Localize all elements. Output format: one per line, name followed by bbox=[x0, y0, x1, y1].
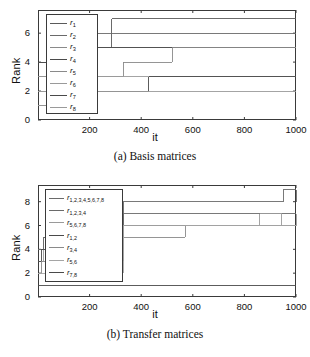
legend-swatch bbox=[50, 23, 67, 24]
legend-a[interactable]: r1r2r3r4r5r6r7r8 bbox=[46, 14, 98, 114]
legend-item[interactable]: r1,2,3,4 bbox=[46, 204, 122, 216]
legend-swatch bbox=[49, 260, 64, 261]
legend-swatch bbox=[49, 222, 64, 223]
figure-container: Rank 0 2 4 6 200 400 600 800 1000 it r1r… bbox=[0, 0, 310, 357]
legend-item[interactable]: r1 bbox=[47, 17, 97, 29]
caption-b: (b) Transfer matrices bbox=[0, 328, 310, 340]
legend-item[interactable]: r6 bbox=[47, 77, 97, 89]
legend-item[interactable]: r1,2 bbox=[46, 229, 122, 241]
legend-label: r8 bbox=[70, 103, 76, 111]
legend-item[interactable]: r7,8 bbox=[46, 266, 122, 278]
legend-label: r3 bbox=[70, 43, 76, 51]
legend-label: r5,6 bbox=[67, 256, 77, 264]
legend-item[interactable]: r4 bbox=[47, 53, 97, 65]
panel-transfer-matrices: Rank 0 2 4 6 8 200 400 600 800 1000 it r… bbox=[0, 176, 310, 357]
legend-label: r2 bbox=[70, 31, 76, 39]
legend-label: r6 bbox=[70, 79, 76, 87]
legend-swatch bbox=[50, 71, 67, 72]
legend-item[interactable]: r5,6 bbox=[46, 254, 122, 266]
legend-item[interactable]: r1,2,3,4,5,6,7,8 bbox=[46, 192, 122, 204]
legend-item[interactable]: r5 bbox=[47, 65, 97, 77]
legend-label: r4 bbox=[70, 55, 76, 63]
legend-item[interactable]: r8 bbox=[47, 101, 97, 113]
legend-label: r1 bbox=[70, 19, 76, 27]
legend-swatch bbox=[50, 83, 67, 84]
legend-swatch bbox=[49, 235, 64, 236]
legend-item[interactable]: r2 bbox=[47, 29, 97, 41]
legend-label: r3,4 bbox=[67, 244, 77, 252]
legend-label: r1,2 bbox=[67, 232, 77, 240]
legend-swatch bbox=[49, 272, 64, 273]
legend-item[interactable]: r5,6,7,8 bbox=[46, 217, 122, 229]
legend-swatch bbox=[49, 210, 64, 211]
legend-swatch bbox=[50, 95, 67, 96]
legend-label: r7,8 bbox=[67, 269, 77, 277]
legend-label: r1,2,3,4 bbox=[67, 207, 86, 215]
legend-swatch bbox=[49, 198, 64, 199]
x-axis-label-a: it bbox=[0, 131, 310, 143]
legend-label: r5 bbox=[70, 67, 76, 75]
legend-item[interactable]: r3,4 bbox=[46, 242, 122, 254]
legend-item[interactable]: r3 bbox=[47, 41, 97, 53]
legend-swatch bbox=[50, 59, 67, 60]
legend-b[interactable]: r1,2,3,4,5,6,7,8r1,2,3,4r5,6,7,8r1,2r3,4… bbox=[45, 189, 123, 282]
plot-area-a: Rank 0 2 4 6 200 400 600 800 1000 it r1r… bbox=[0, 0, 310, 148]
panel-basis-matrices: Rank 0 2 4 6 200 400 600 800 1000 it r1r… bbox=[0, 0, 310, 176]
legend-swatch bbox=[50, 35, 67, 36]
legend-label: r7 bbox=[70, 91, 76, 99]
legend-swatch bbox=[50, 107, 67, 108]
legend-item[interactable]: r7 bbox=[47, 89, 97, 101]
x-axis-label-b: it bbox=[0, 308, 310, 320]
legend-swatch bbox=[50, 47, 67, 48]
caption-a: (a) Basis matrices bbox=[0, 150, 310, 162]
legend-label: r5,6,7,8 bbox=[67, 219, 86, 227]
plot-area-b: Rank 0 2 4 6 8 200 400 600 800 1000 it r… bbox=[0, 176, 310, 324]
legend-swatch bbox=[49, 247, 64, 248]
legend-label: r1,2,3,4,5,6,7,8 bbox=[67, 194, 104, 202]
